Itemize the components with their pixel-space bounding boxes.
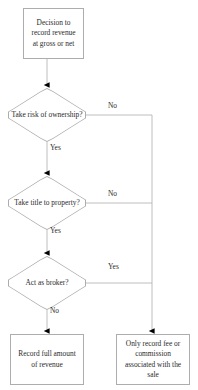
edge-label-title-no: No [108,189,117,198]
flowchart-canvas: Decision to record revenue at gross or n… [0,0,198,390]
node-start-label: Decision to record revenue at gross or n… [28,18,79,49]
edge-label-risk-yes: Yes [50,143,61,152]
edge-label-title-yes: Yes [50,226,61,235]
edge-label-broker-no: No [50,306,59,315]
edge-label-risk-no: No [108,101,117,110]
node-broker-label: Act as broker? [8,256,86,310]
node-record-full-label: Record full amount of revenue [15,349,79,369]
node-decision-act-as-broker: Act as broker? [8,256,86,310]
node-record-fee-or-commission: Only record fee or commission associated… [116,334,190,385]
node-start: Decision to record revenue at gross or n… [23,8,84,59]
node-decision-take-title: Take title to property? [8,176,86,230]
node-risk-label: Take risk of ownership? [8,88,86,142]
node-record-full-amount: Record full amount of revenue [10,334,84,385]
node-title-label: Take title to property? [8,176,86,230]
node-decision-risk-of-ownership: Take risk of ownership? [8,88,86,142]
node-record-fee-label: Only record fee or commission associated… [121,339,185,380]
edge-label-broker-yes: Yes [108,262,119,271]
